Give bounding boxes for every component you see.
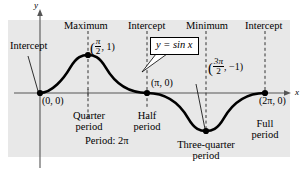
- minimum-fraction: 3π2: [213, 57, 224, 77]
- leader-intercept-origin: [28, 56, 38, 91]
- equation-callout-box: y = sin x: [150, 37, 199, 55]
- caption-three-quarter-period: Three-quarter period: [166, 139, 246, 162]
- caption-three-quarter-period-line1: Three-quarter: [166, 139, 246, 150]
- point-half: [144, 90, 150, 96]
- caption-full-period-line2: period: [245, 129, 285, 140]
- point-label-minimum: (3π2, −1): [208, 57, 243, 77]
- sine-curve-figure: Maximum Intercept Minimum Intercept Inte…: [0, 0, 306, 177]
- equation-text: y = sin x: [156, 39, 193, 50]
- caption-quarter-period: Quarter period: [62, 110, 116, 133]
- point-minimum: [203, 128, 209, 134]
- top-label-minimum: Minimum: [186, 21, 228, 32]
- point-label-maximum: (π2, 1): [90, 37, 115, 57]
- label-intercept-origin: Intercept: [10, 41, 47, 52]
- x-axis-label: x: [295, 88, 299, 97]
- caption-half-period-line1: Half: [125, 110, 169, 121]
- caption-half-period: Half period: [125, 110, 169, 133]
- caption-half-period-line2: period: [125, 121, 169, 132]
- callout-pointer: [142, 54, 167, 72]
- minimum-suffix: , −1): [224, 61, 243, 72]
- y-axis-label: y: [34, 1, 38, 10]
- top-label-intercept-2pi: Intercept: [245, 21, 282, 32]
- point-label-half: (π, 0): [151, 78, 173, 88]
- point-label-origin: (0, 0): [42, 96, 64, 106]
- top-label-intercept-pi: Intercept: [128, 21, 165, 32]
- point-label-full: (2π, 0): [259, 96, 286, 106]
- y-axis: [37, 9, 43, 168]
- caption-three-quarter-period-line2: period: [166, 150, 246, 161]
- caption-full-period: Full period: [245, 118, 285, 141]
- top-label-maximum: Maximum: [64, 21, 108, 32]
- caption-full-period-line1: Full: [245, 118, 285, 129]
- minimum-denominator: 2: [213, 67, 224, 76]
- caption-quarter-period-line1: Quarter: [62, 110, 116, 121]
- maximum-suffix: , 1): [101, 41, 114, 52]
- leader-minimum-label: [196, 84, 205, 129]
- caption-period-note: Period: 2π: [85, 136, 129, 147]
- caption-quarter-period-line2: period: [62, 121, 116, 132]
